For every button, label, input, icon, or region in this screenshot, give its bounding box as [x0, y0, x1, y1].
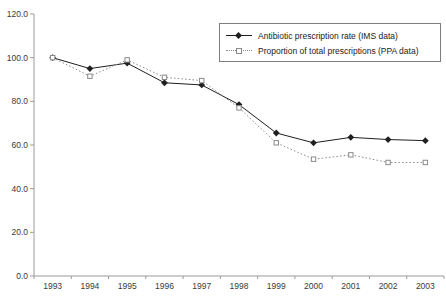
ppa-data-point-marker: [125, 58, 129, 62]
y-axis-tick-label: 120.0: [7, 9, 29, 19]
ppa-data-point-marker: [50, 55, 54, 59]
ppa-data-point-marker: [386, 160, 390, 164]
ppa-data-point-marker: [237, 106, 241, 110]
x-axis-tick-label: 2001: [341, 281, 360, 291]
chart-legend: Antibiotic prescription rate (IMS data) …: [219, 23, 441, 62]
legend-label-ppa: Proportion of total prescriptions (PPA d…: [258, 46, 418, 56]
ims-data-point-marker: [87, 65, 94, 72]
ppa-data-point-marker: [162, 75, 166, 79]
ppa-data-point-marker: [349, 153, 353, 157]
x-axis-tick-label: 2002: [379, 281, 398, 291]
x-axis-tick-label: 1999: [267, 281, 286, 291]
x-axis-tick-label: 2000: [304, 281, 323, 291]
y-axis-tick-label: 80.0: [11, 96, 28, 106]
legend-label-ims: Antibiotic prescription rate (IMS data): [258, 31, 398, 41]
open-square-icon: [236, 48, 242, 54]
series-line-0: [53, 58, 426, 143]
y-axis-tick-label: 40.0: [11, 184, 28, 194]
ims-data-point-marker: [347, 134, 354, 141]
x-axis-tick-label: 1996: [155, 281, 174, 291]
ppa-data-point-marker: [88, 74, 92, 78]
y-axis-tick-label: 20.0: [11, 227, 28, 237]
y-axis-tick-label: 0.0: [16, 271, 28, 281]
line-chart-figure: 0.020.040.060.080.0100.0120.019931994199…: [0, 0, 446, 302]
y-axis-tick-label: 100.0: [7, 53, 29, 63]
x-axis-tick-label: 2003: [416, 281, 435, 291]
ims-line-marker-icon: [226, 31, 252, 40]
x-axis-tick-label: 1997: [192, 281, 211, 291]
ims-data-point-marker: [422, 137, 429, 144]
ppa-line-marker-icon: [226, 46, 252, 55]
x-axis-tick-label: 1994: [80, 281, 99, 291]
filled-diamond-icon: [235, 32, 242, 39]
ims-data-point-marker: [161, 79, 168, 86]
ppa-data-point-marker: [274, 141, 278, 145]
ppa-data-point-marker: [423, 160, 427, 164]
y-axis-tick-label: 60.0: [11, 140, 28, 150]
legend-item-ppa: Proportion of total prescriptions (PPA d…: [226, 43, 440, 58]
ppa-data-point-marker: [311, 157, 315, 161]
ims-data-point-marker: [310, 139, 317, 146]
x-axis-tick-label: 1995: [118, 281, 137, 291]
x-axis-tick-label: 1998: [230, 281, 249, 291]
ims-data-point-marker: [385, 136, 392, 143]
legend-item-ims: Antibiotic prescription rate (IMS data): [226, 28, 440, 43]
x-axis-tick-label: 1993: [43, 281, 62, 291]
ppa-data-point-marker: [200, 78, 204, 82]
